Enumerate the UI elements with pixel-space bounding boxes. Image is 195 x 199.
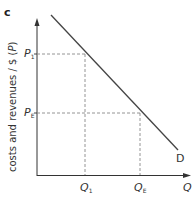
pe-label: PE <box>24 106 35 119</box>
x-axis-label: Q <box>183 181 192 194</box>
y-axis-arrow-icon <box>35 18 40 26</box>
panel-label: c <box>4 6 11 19</box>
qe-label: QE <box>134 181 147 194</box>
x-axis-arrow-icon <box>183 173 191 178</box>
y-axis-label: costs and revenues / $ (P) <box>7 42 18 172</box>
q1-label: Q1 <box>80 181 93 194</box>
demand-label: D <box>176 152 184 165</box>
demand-line <box>51 15 178 150</box>
p1-label: P1 <box>24 47 35 60</box>
chart-canvas: c costs and revenues / $ (P) P1 PE Q1 QE… <box>0 0 195 199</box>
